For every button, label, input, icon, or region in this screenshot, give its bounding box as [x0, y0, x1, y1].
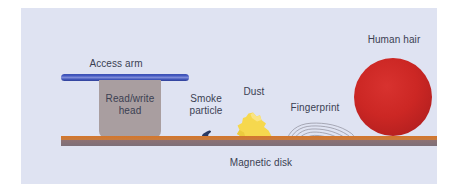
- label-magnetic-disk: Magnetic disk: [201, 157, 321, 169]
- label-read-write-head: Read/write head: [97, 93, 163, 116]
- label-human-hair: Human hair: [351, 34, 437, 46]
- label-fingerprint: Fingerprint: [277, 102, 353, 114]
- figure-canvas: Access arm Read/write head Smoke particl…: [0, 0, 457, 194]
- magnetic-disk-substrate: [61, 140, 437, 146]
- label-access-arm: Access arm: [61, 58, 171, 70]
- label-dust: Dust: [226, 86, 282, 98]
- magnetic-disk: [61, 136, 437, 146]
- diagram-panel: Access arm Read/write head Smoke particl…: [21, 8, 437, 184]
- human-hair-cross-section: [354, 58, 432, 136]
